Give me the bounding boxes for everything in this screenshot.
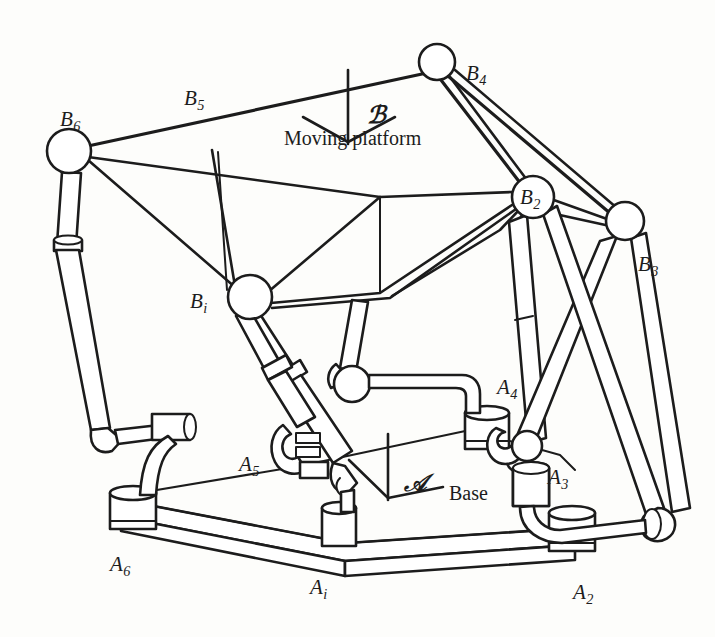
- node-label-Ai-sub: i: [323, 586, 327, 602]
- node-label-A5-base: A: [239, 452, 252, 476]
- node-label-B4: B4: [466, 61, 486, 89]
- node-label-B5: B5: [184, 86, 204, 114]
- frame-b-symbol-label: ℬ: [367, 100, 386, 129]
- node-label-A4-base: A: [497, 375, 510, 399]
- node-label-A6-sub: 6: [123, 563, 130, 579]
- frame-a-symbol-label: 𝒜: [404, 468, 427, 497]
- node-label-Bi: Bi: [190, 289, 207, 317]
- node-label-A4: A4: [497, 375, 517, 403]
- node-label-A3-sub: 3: [561, 476, 568, 492]
- ball-joint-B6: [47, 129, 91, 173]
- node-label-A4-sub: 4: [510, 386, 517, 402]
- node-label-A5: A5: [239, 452, 259, 480]
- node-label-A2-sub: 2: [586, 591, 593, 607]
- ball-joint-Bi: [228, 275, 272, 319]
- node-label-A2-base: A: [573, 580, 586, 604]
- leg-B6-A6: [54, 172, 196, 495]
- node-label-B6-sub: 6: [73, 118, 80, 134]
- moving-platform-label: Moving platform: [284, 127, 421, 150]
- node-label-A5-sub: 5: [252, 463, 259, 479]
- node-label-Bi-sub: i: [203, 300, 207, 316]
- node-label-B3: B3: [638, 252, 658, 280]
- node-label-B5-base: B: [184, 86, 197, 110]
- node-label-A2: A2: [573, 580, 593, 608]
- frame-a-axis: [349, 434, 443, 500]
- manipulator-diagram: .s { fill:none; stroke:#1c1c1c; stroke-l…: [0, 0, 715, 637]
- figure-canvas: .s { fill:none; stroke:#1c1c1c; stroke-l…: [0, 0, 715, 637]
- node-label-B5-sub: 5: [197, 97, 204, 113]
- node-label-B4-base: B: [466, 61, 479, 85]
- ball-joint-B3: [606, 202, 644, 240]
- node-label-Bi-base: B: [190, 289, 203, 313]
- platform-ball-joints: [47, 44, 644, 319]
- node-label-B2-base: B: [520, 185, 533, 209]
- center-ball-linkage: [328, 300, 480, 413]
- node-label-B6-base: B: [60, 107, 73, 131]
- node-label-B3-sub: 3: [651, 263, 658, 279]
- base-label: Base: [449, 482, 488, 505]
- node-label-A6-base: A: [110, 552, 123, 576]
- node-label-B3-base: B: [638, 252, 651, 276]
- node-label-Ai: Ai: [310, 575, 327, 603]
- node-label-B4-sub: 4: [479, 72, 486, 88]
- node-label-A6: A6: [110, 552, 130, 580]
- node-label-B2-sub: 2: [533, 196, 540, 212]
- node-label-B6: B6: [60, 107, 80, 135]
- node-label-Ai-base: A: [310, 575, 323, 599]
- node-label-A3-base: A: [548, 465, 561, 489]
- node-label-B2: B2: [520, 185, 540, 213]
- ball-joint-B4: [419, 44, 455, 80]
- node-label-A3: A3: [548, 465, 568, 493]
